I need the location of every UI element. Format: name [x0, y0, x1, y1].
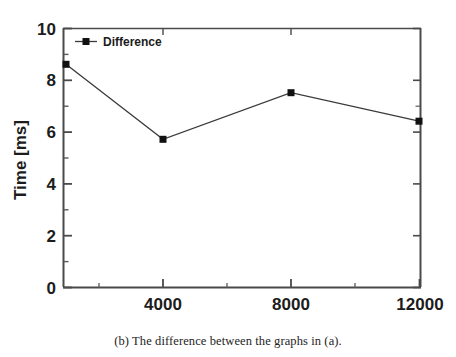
series-difference-markers — [63, 61, 423, 143]
x-tick-label-8000: 8000 — [272, 295, 310, 314]
legend-marker-difference — [83, 38, 90, 45]
x-tick-label-4000: 4000 — [144, 295, 182, 314]
x-axis-title: Problem Size [N] — [172, 317, 307, 320]
x-axis-major-ticks — [163, 279, 420, 288]
plot-frame — [63, 28, 421, 288]
y-tick-label-4: 4 — [47, 175, 57, 194]
figure-container: 0 2 4 6 8 10 4000 8000 12000 Time [ms] D… — [0, 0, 456, 357]
y-tick-label-0: 0 — [47, 279, 56, 298]
y-axis-title: Time [ms] — [11, 120, 30, 200]
right-axis-ticks — [413, 29, 421, 288]
y-tick-label-10: 10 — [37, 20, 56, 39]
chart-plot: 0 2 4 6 8 10 4000 8000 12000 Time [ms] D… — [0, 0, 456, 320]
series-difference-line — [66, 64, 419, 139]
y-tick-label-2: 2 — [47, 227, 56, 246]
figure-caption: (b) The difference between the graphs in… — [0, 334, 456, 349]
y-tick-label-6: 6 — [47, 123, 56, 142]
top-axis-ticks — [163, 29, 291, 36]
y-tick-label-8: 8 — [47, 71, 56, 90]
legend-label-difference: Difference — [103, 35, 162, 49]
chart-legend: Difference — [75, 35, 162, 49]
x-tick-label-12000: 12000 — [396, 295, 443, 314]
